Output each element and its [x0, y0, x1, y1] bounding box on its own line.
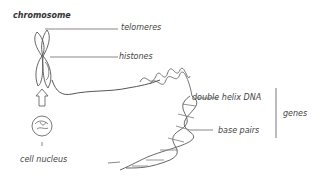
- diagram-title: chromosome: [13, 11, 71, 20]
- label-histones: histones: [119, 52, 153, 61]
- diagram-canvas: [0, 0, 325, 176]
- label-telomeres: telomeres: [121, 23, 161, 32]
- label-cell-nucleus: cell nucleus: [20, 155, 67, 164]
- coiled-dna-icon: [140, 68, 192, 96]
- double-helix-icon: [120, 96, 197, 170]
- cell-nucleus-icon: [32, 116, 52, 136]
- label-double-helix: double helix DNA: [192, 93, 261, 102]
- label-genes: genes: [283, 109, 307, 118]
- arrow-up-icon: [36, 89, 48, 106]
- chromosome-icon: [35, 30, 51, 88]
- label-base-pairs: base pairs: [218, 126, 259, 135]
